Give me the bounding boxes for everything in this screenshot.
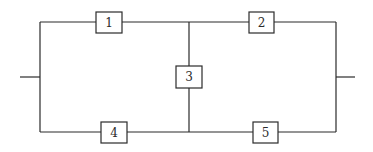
component-3-label: 3 (185, 70, 193, 84)
component-5-label: 5 (262, 126, 270, 140)
component-4: 4 (101, 122, 127, 143)
bridge-network-diagram: 1 2 3 4 5 (0, 0, 373, 152)
component-3: 3 (176, 66, 202, 88)
component-4-label: 4 (110, 126, 118, 140)
component-5: 5 (253, 122, 278, 143)
component-2: 2 (249, 12, 274, 33)
component-1: 1 (96, 12, 122, 33)
component-1-label: 1 (105, 16, 113, 30)
component-2-label: 2 (258, 16, 266, 30)
